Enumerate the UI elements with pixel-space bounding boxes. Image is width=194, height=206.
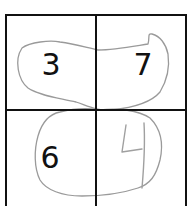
handwritten-digit-4 <box>122 123 144 188</box>
puzzle-canvas: 3 7 6 <box>0 0 194 206</box>
cell-r0c1-digit: 7 <box>128 50 158 80</box>
cell-r0c0-digit: 3 <box>36 50 66 80</box>
grid-divider-horizontal <box>5 109 187 111</box>
annotation-loops <box>0 0 194 206</box>
cell-r1c0-digit: 6 <box>35 143 65 173</box>
